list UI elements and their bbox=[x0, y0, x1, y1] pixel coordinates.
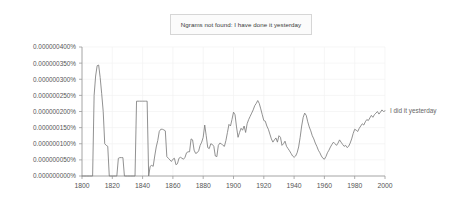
y-tick-label: 0.000000100% bbox=[33, 140, 76, 147]
y-tick-label: 0.000000150% bbox=[33, 124, 76, 131]
x-tick-label: 1820 bbox=[105, 182, 120, 189]
x-tick-label: 1900 bbox=[226, 182, 241, 189]
x-tick-label: 1980 bbox=[347, 182, 362, 189]
series-inline-label: I did it yesterday bbox=[390, 107, 437, 115]
y-tick-label: 0.000000000% bbox=[33, 172, 76, 179]
x-axis-ticks: 1800182018401860188019001920194019601980… bbox=[74, 176, 392, 189]
x-tick-label: 1800 bbox=[74, 182, 89, 189]
x-tick-label: 2000 bbox=[377, 182, 392, 189]
gridlines bbox=[82, 47, 385, 176]
y-tick-label: 0.000000400% bbox=[33, 43, 76, 50]
ngrams-not-found-notice: Ngrams not found: I have done it yesterd… bbox=[170, 14, 312, 35]
x-tick-label: 1860 bbox=[165, 182, 180, 189]
chart-canvas: 0.000000400%0.000000350%0.000000300%0.00… bbox=[0, 40, 451, 205]
y-tick-label: 0.000000350% bbox=[33, 60, 76, 67]
y-tick-label: 0.000000300% bbox=[33, 76, 76, 83]
x-tick-label: 1840 bbox=[135, 182, 150, 189]
x-tick-label: 1940 bbox=[287, 182, 302, 189]
notice-text: Ngrams not found: I have done it yesterd… bbox=[181, 21, 301, 28]
x-tick-label: 1880 bbox=[196, 182, 211, 189]
y-tick-label: 0.000000200% bbox=[33, 108, 76, 115]
y-tick-label: 0.000000250% bbox=[33, 92, 76, 99]
ngram-viewer-screenshot: Ngrams not found: I have done it yesterd… bbox=[0, 0, 451, 205]
x-tick-label: 1920 bbox=[256, 182, 271, 189]
x-tick-label: 1960 bbox=[317, 182, 332, 189]
y-tick-label: 0.000000050% bbox=[33, 156, 76, 163]
y-axis-ticks: 0.000000400%0.000000350%0.000000300%0.00… bbox=[33, 43, 82, 179]
ngram-chart: 0.000000400%0.000000350%0.000000300%0.00… bbox=[0, 40, 451, 205]
